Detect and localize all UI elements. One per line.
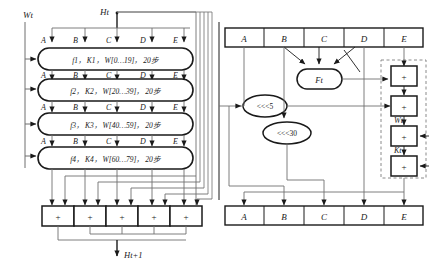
round-1-label: f1， K1， W[0…19]， 20步 xyxy=(72,56,160,65)
left-input-ht-label: Ht xyxy=(99,7,109,17)
round-3-reg-d: D xyxy=(139,103,146,112)
round-4-label: f4， K4， W[60…79]， 20步 xyxy=(70,155,161,164)
feedforward-rails xyxy=(65,12,212,205)
right-input-wt-label: Wt xyxy=(394,116,404,125)
round-3-label: f3， K3， W[40…59]， 20步 xyxy=(70,121,161,130)
round-2-label: f2， K2， W[20…39]， 20步 xyxy=(70,87,161,96)
function-ft-group: Ft xyxy=(284,47,360,89)
round-3-reg-b: B xyxy=(73,103,78,112)
diagram-canvas: Wt Ht xyxy=(0,0,429,269)
top-reg-d: D xyxy=(360,34,368,44)
bottom-reg-c: C xyxy=(321,212,328,222)
round-1-reg-b: B xyxy=(73,36,78,45)
top-reg-b: B xyxy=(281,34,287,44)
round-2-group: A B C D E f2， K2， W[20…39]， 20步 xyxy=(38,70,193,101)
bottom-reg-a: A xyxy=(240,212,247,222)
output-collection-tree: Ht+1 xyxy=(58,226,186,260)
right-input-kt-label: Kt xyxy=(393,146,402,155)
adder-row: + + + + + xyxy=(42,206,202,226)
right-adder-4-symbol: + xyxy=(401,162,406,172)
round-4-reg-d: D xyxy=(139,137,146,146)
right-top-register-row: A B C D E xyxy=(225,28,423,47)
round4-to-adders-routing xyxy=(52,169,184,205)
round-4-reg-c: C xyxy=(106,137,112,146)
right-adder-3-symbol: + xyxy=(401,132,406,142)
adder-3-symbol: + xyxy=(119,212,124,222)
left-output-label: Ht+1 xyxy=(123,250,143,260)
bottom-reg-d: D xyxy=(360,212,368,222)
right-panel: A B C D E Ft <<<5 xyxy=(219,22,429,225)
sha1-diagram-page: Wt Ht xyxy=(0,0,429,269)
adder-4-symbol: + xyxy=(151,212,156,222)
round-3-reg-c: C xyxy=(106,103,112,112)
right-adder-1-symbol: + xyxy=(401,72,406,82)
adder-chain-group: + + + + Wt Kt xyxy=(342,47,429,178)
wt-bus xyxy=(25,22,36,168)
function-ft-label: Ft xyxy=(314,75,323,85)
round-4-group: A B C D E f4， K4， W[60…79]， 20步 xyxy=(38,135,193,169)
right-adder-2-symbol: + xyxy=(401,102,406,112)
top-reg-c: C xyxy=(321,34,328,44)
round-4-reg-a: A xyxy=(40,137,46,146)
round-3-reg-a: A xyxy=(40,103,46,112)
bottom-reg-b: B xyxy=(281,212,287,222)
left-panel: Wt Ht xyxy=(23,7,212,260)
adder-2-symbol: + xyxy=(87,212,92,222)
round-2-reg-a: A xyxy=(40,71,46,80)
rotate-left-5-label: <<<5 xyxy=(257,102,274,111)
adder-5-symbol: + xyxy=(183,212,188,222)
round-4-reg-e: E xyxy=(172,137,178,146)
round-3-reg-e: E xyxy=(172,103,178,112)
round-1-group: A B C D E f1， K1， W[0…19]， 20步 xyxy=(38,36,193,70)
round-4-reg-b: B xyxy=(73,137,78,146)
round-1-reg-c: C xyxy=(106,36,112,45)
round-1-reg-a: A xyxy=(40,36,46,45)
left-input-wt-label: Wt xyxy=(23,10,33,20)
round-1-reg-d: D xyxy=(139,36,146,45)
bottom-reg-e: E xyxy=(400,212,407,222)
rotate-left-30-label: <<<30 xyxy=(277,129,297,138)
round-1-reg-e: E xyxy=(172,36,178,45)
round-3-group: A B C D E f3， K3， W[40…59]， 20步 xyxy=(38,101,193,135)
right-bottom-register-row: A B C D E xyxy=(225,206,423,225)
top-reg-e: E xyxy=(400,34,407,44)
adder-1-symbol: + xyxy=(55,212,60,222)
top-reg-a: A xyxy=(240,34,247,44)
